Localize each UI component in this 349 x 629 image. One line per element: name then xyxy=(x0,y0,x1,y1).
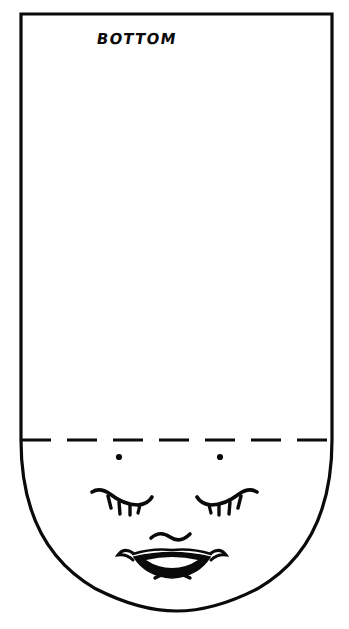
pattern-illustration: BOTTOM xyxy=(0,0,349,629)
right-eyelash-2 xyxy=(229,502,230,514)
left-eyelash-2 xyxy=(119,502,120,514)
piece-label-bottom: BOTTOM xyxy=(95,30,178,48)
pattern-sheet: BOTTOM xyxy=(0,0,349,629)
page-background xyxy=(0,0,349,629)
right-eyelash-4 xyxy=(209,505,211,513)
placement-dot-left xyxy=(116,454,122,460)
left-eyelash-4 xyxy=(138,505,140,513)
placement-dot-right xyxy=(217,454,223,460)
